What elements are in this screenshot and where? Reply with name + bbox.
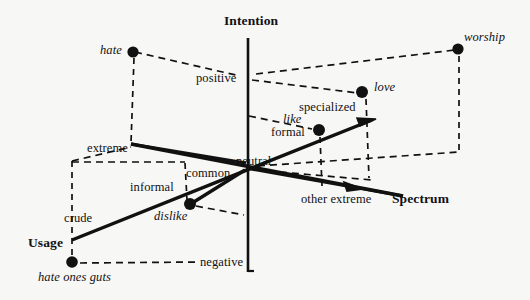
- data-point-hate: [127, 46, 138, 57]
- data-point-worship: [452, 43, 463, 54]
- data-point-like: [313, 124, 325, 136]
- data-point-layer: [0, 0, 530, 300]
- diagram-canvas: Intention Spectrum Usage positive neutra…: [0, 0, 530, 300]
- data-point-hate-ones-guts: [66, 256, 78, 268]
- data-point-love: [356, 86, 368, 98]
- data-point-dislike: [184, 198, 196, 210]
